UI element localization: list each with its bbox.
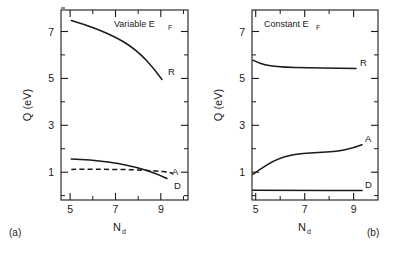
figure-container: 7 5 3 1 5 7 9 Q (eV) N d Variable E F	[0, 0, 397, 253]
panel-a-xlabel-text: N	[113, 221, 121, 233]
panel-b-note-subscript: F	[316, 24, 320, 31]
panel-b-marker: (b)	[367, 227, 379, 238]
panel-a-ytick-label-2: 3	[48, 119, 54, 131]
panel-b-note-text: Constant E	[264, 19, 309, 29]
panel-b-label-a: A	[365, 133, 372, 144]
panel-a-label-r: R	[168, 66, 175, 77]
panel-b-xtick-label-0: 5	[253, 203, 259, 215]
panel-a-y-major-ticks	[61, 32, 188, 173]
panel-a-xlabel-subscript: d	[122, 228, 126, 235]
panel-a-label-a: A	[172, 166, 179, 177]
panel-b-xlabel-text: N	[298, 221, 306, 233]
panel-b-curve-a	[253, 145, 362, 175]
panel-b-label-r: R	[360, 57, 367, 68]
panel-a-ytick-label-3: 1	[48, 166, 54, 178]
panel-a-x-axis-title: N d	[113, 221, 126, 235]
panel-b-y-minor-ticks	[252, 55, 378, 196]
panel-a-plot-frame	[61, 10, 188, 200]
panel-b-x-minor-ticks	[280, 10, 329, 200]
figure-svg: 7 5 3 1 5 7 9 Q (eV) N d Variable E F	[0, 0, 397, 253]
panel-b-note: Constant E F	[264, 19, 320, 31]
panel-a-xtick-label-1: 7	[113, 203, 119, 215]
panel-b-xtick-label-2: 9	[351, 203, 357, 215]
panel-b-x-major-ticks	[256, 10, 354, 200]
panel-a-x-major-ticks	[70, 10, 161, 200]
panel-a: 7 5 3 1 5 7 9 Q (eV) N d Variable E F	[9, 8, 188, 238]
panel-a-ytick-label-1: 5	[48, 72, 54, 84]
panel-a-y-minor-ticks	[61, 8, 188, 196]
panel-a-label-d: D	[174, 180, 181, 191]
panel-b-plot-frame	[252, 10, 378, 200]
panel-b-x-axis-title: N d	[298, 221, 311, 235]
panel-a-ytick-label-0: 7	[48, 26, 54, 38]
panel-b-ytick-label-2: 3	[239, 119, 245, 131]
panel-a-curve-d	[71, 169, 173, 173]
panel-a-x-minor-ticks	[93, 10, 184, 200]
panel-a-note-text: Variable E	[114, 19, 155, 29]
panel-a-xtick-label-0: 5	[67, 203, 73, 215]
panel-b-curve-r	[253, 60, 356, 68]
panel-a-curve-r	[71, 21, 162, 80]
panel-b: 7 5 3 1 5 7 9 Q (eV) N d Constant E F R …	[212, 10, 379, 238]
panel-b-label-d: D	[365, 179, 372, 190]
panel-a-y-axis-title: Q (eV)	[21, 89, 33, 121]
panel-b-y-major-ticks	[252, 32, 378, 173]
panel-a-note: Variable E F	[114, 19, 172, 31]
panel-a-marker: (a)	[9, 227, 21, 238]
panel-a-note-subscript: F	[168, 24, 172, 31]
panel-b-y-axis-title: Q (eV)	[212, 89, 224, 121]
panel-b-ylabel-text: Q (eV)	[212, 89, 224, 121]
panel-b-ytick-label-3: 1	[239, 166, 245, 178]
panel-a-curve-a	[71, 159, 167, 178]
panel-a-ylabel-text: Q (eV)	[21, 89, 33, 121]
panel-b-xlabel-subscript: d	[307, 228, 311, 235]
panel-b-ytick-label-1: 5	[239, 72, 245, 84]
panel-a-xtick-label-2: 9	[158, 203, 164, 215]
panel-b-ytick-label-0: 7	[239, 26, 245, 38]
panel-b-xtick-label-1: 7	[302, 203, 308, 215]
